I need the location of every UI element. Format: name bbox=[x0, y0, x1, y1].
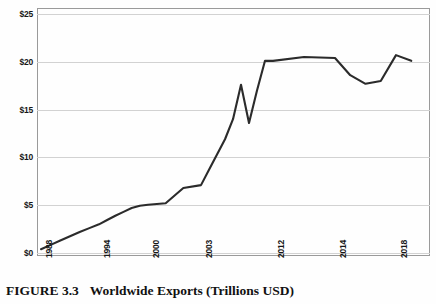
x-axis-tick-label: 1988 bbox=[45, 240, 54, 258]
x-axis-tick-label: 2018 bbox=[400, 240, 409, 258]
x-axis-tick-label: 2012 bbox=[277, 240, 286, 258]
figure-title: Worldwide Exports (Trillions USD) bbox=[90, 283, 294, 298]
x-axis-tick-label: 2003 bbox=[205, 240, 214, 258]
x-axis-tick-label: 2014 bbox=[339, 240, 348, 258]
figure-number: FIGURE 3.3 bbox=[6, 283, 79, 298]
x-axis-tick-label: 2000 bbox=[152, 240, 161, 258]
figure-container: $0$5$10$15$20$25 19881994200020032012201… bbox=[0, 0, 436, 304]
x-axis: 1988199420002003201220142018 bbox=[0, 0, 436, 304]
x-axis-tick-label: 1994 bbox=[103, 240, 112, 258]
figure-caption: FIGURE 3.3Worldwide Exports (Trillions U… bbox=[6, 283, 294, 299]
